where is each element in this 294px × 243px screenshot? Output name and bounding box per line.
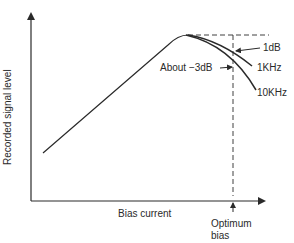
curve-10khz-label: 10KHz [257, 88, 287, 98]
curve-1khz-label: 1KHz [257, 63, 281, 73]
optimum-label: Optimum [211, 219, 252, 229]
minus-1db-label: 1dB [263, 43, 281, 53]
signal-curve-rising [43, 35, 188, 153]
minus-1db-pointer [236, 48, 260, 51]
bias-curve-diagram [0, 0, 294, 243]
bias-label: bias [211, 231, 229, 241]
about-minus-3db-label: About −3dB [160, 63, 213, 73]
minus-3db-pointer [220, 67, 232, 68]
y-axis-label: Recorded signal level [2, 69, 13, 165]
x-axis-label: Bias current [118, 209, 171, 219]
